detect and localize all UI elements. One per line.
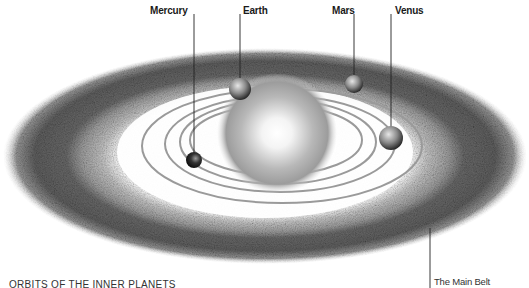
orbit-illustration [0, 0, 529, 288]
label-venus: Venus [395, 5, 423, 16]
label-mars: Mars [332, 5, 355, 16]
mars-planet-icon [345, 75, 363, 93]
label-main-belt: The Main Belt [434, 276, 490, 287]
inner-planets-diagram: Mercury Earth Mars Venus The Main Belt O… [0, 0, 529, 288]
label-earth: Earth [243, 5, 268, 16]
venus-planet-icon [379, 126, 403, 150]
earth-planet-icon [229, 78, 251, 100]
diagram-title: ORBITS OF THE INNER PLANETS [9, 279, 176, 288]
label-mercury: Mercury [150, 5, 188, 16]
mercury-planet-icon [186, 152, 202, 168]
